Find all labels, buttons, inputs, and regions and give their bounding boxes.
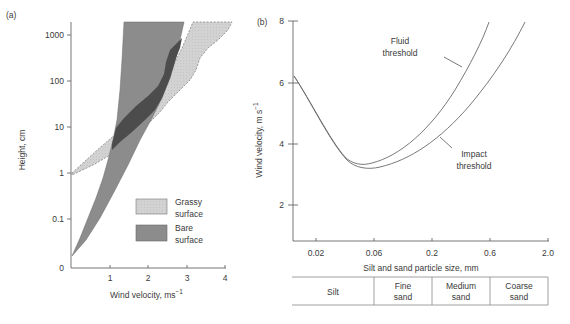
fluid-label-line1: Fluid (391, 36, 410, 46)
class-medium-line1: Medium (446, 281, 476, 291)
legend-bare-line1: Bare (175, 223, 193, 233)
figure: (a) 1000 100 10 1 0.1 0 (0, 0, 570, 324)
y-tick-8: 8 (279, 16, 284, 26)
x-tick-1: 1 (108, 273, 113, 283)
legend-bare-swatch (136, 225, 167, 241)
impact-threshold-curve (294, 22, 525, 168)
panel-a-y-ticks: 1000 100 10 1 0.1 0 (45, 30, 71, 273)
fluid-pointer (444, 57, 462, 67)
class-coarse-line2: sand (510, 292, 529, 302)
class-fine-line1: Fine (395, 281, 412, 291)
class-silt: Silt (327, 287, 339, 297)
legend-grassy-line2: surface (175, 209, 203, 219)
x-tick-2.0: 2.0 (542, 248, 554, 258)
x-tick-4: 4 (223, 273, 228, 283)
legend-bare-line2: surface (175, 235, 203, 245)
x-tick-0.2: 0.2 (426, 248, 438, 258)
y-tick-1: 1 (59, 168, 64, 178)
impact-label-line2: threshold (457, 161, 492, 171)
y-tick-6: 6 (279, 78, 284, 88)
class-medium-line2: sand (452, 292, 471, 302)
legend-grassy-swatch (136, 199, 167, 214)
panel-a: (a) 1000 100 10 1 0.1 0 (6, 10, 232, 300)
y-tick-10: 10 (55, 122, 65, 132)
panel-a-y-label: Height, cm (17, 130, 27, 171)
legend-grassy-line1: Grassy (175, 197, 203, 207)
bare-surface-region (72, 22, 184, 256)
panel-b-y-ticks: 8 6 4 2 (279, 16, 298, 210)
class-fine-line2: sand (394, 292, 413, 302)
panel-b: (b) 8 6 4 2 0.02 0.06 0.2 0.6 2.0 (252, 16, 554, 305)
fluid-label-line2: threshold (383, 48, 418, 58)
y-tick-4: 4 (279, 139, 284, 149)
panel-a-legend: Grassy surface Bare surface (136, 197, 203, 245)
impact-pointer (440, 137, 452, 148)
x-tick-0.02: 0.02 (308, 248, 325, 258)
class-coarse-line1: Coarse (505, 281, 533, 291)
panel-b-y-label: Wind velocity, m s−1 (252, 102, 264, 178)
x-tick-0.6: 0.6 (484, 248, 496, 258)
panel-b-label: (b) (257, 17, 268, 27)
y-tick-100: 100 (50, 76, 64, 86)
size-class-table: Silt Fine sand Medium sand Coarse sand (292, 277, 548, 305)
panel-a-label: (a) (6, 10, 17, 20)
y-tick-1000: 1000 (45, 30, 64, 40)
panel-a-x-label: Wind velocity, ms−1 (110, 288, 183, 300)
panel-b-x-label: Silt and sand particle size, mm (363, 263, 478, 273)
impact-label-line1: Impact (461, 149, 487, 159)
y-tick-0.1: 0.1 (52, 214, 64, 224)
y-tick-2: 2 (279, 200, 284, 210)
x-tick-0.06: 0.06 (366, 248, 383, 258)
y-tick-0: 0 (59, 263, 64, 273)
x-tick-2: 2 (146, 273, 151, 283)
x-tick-3: 3 (185, 273, 190, 283)
